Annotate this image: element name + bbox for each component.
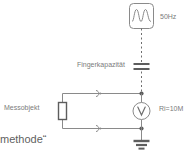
frequency-label: 50Hz (160, 13, 176, 20)
voltmeter-icon (133, 103, 150, 120)
caption-fragment: methode“ (0, 134, 46, 145)
terminal-pin-top (99, 92, 101, 94)
circuit-diagram-figure: 50Hz Fingerkapazität Messobjekt Ri=10M m… (0, 0, 191, 154)
sine-wave-source-icon (130, 4, 154, 29)
diagram-canvas (0, 0, 191, 154)
input-resistance-label: Ri=10M (159, 105, 183, 112)
capacitor-icon (134, 64, 150, 69)
resistor-icon (59, 103, 67, 120)
device-under-test-label: Messobjekt (4, 104, 39, 111)
finger-capacitance-label: Fingerkapazität (77, 61, 125, 68)
terminal-pin-bottom (99, 127, 101, 129)
voltmeter-body (133, 103, 150, 120)
ground-icon (134, 141, 150, 149)
ac-source-body (130, 4, 154, 29)
